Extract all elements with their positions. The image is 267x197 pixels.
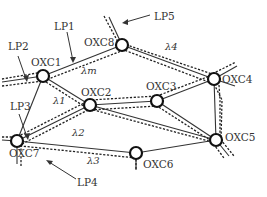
node-oxc1[interactable] xyxy=(37,70,49,82)
label-oxc1: OXC1 xyxy=(31,56,61,68)
node-oxc8[interactable] xyxy=(116,39,128,51)
label-lp5: LP5 xyxy=(154,10,175,22)
label-lp4: LP4 xyxy=(77,176,98,188)
label-lambda3: λ3 xyxy=(86,155,100,166)
label-lp1: LP1 xyxy=(54,20,75,32)
label-lambda2: λ2 xyxy=(71,127,85,138)
lp5-arrowhead xyxy=(122,19,128,25)
node-oxc3[interactable] xyxy=(151,95,163,107)
label-oxc2: OXC2 xyxy=(81,86,111,98)
label-lp3: LP3 xyxy=(10,100,31,112)
label-lambda4: λ4 xyxy=(164,41,178,52)
label-lambda1: λ1 xyxy=(52,95,66,106)
lp4-arrow xyxy=(49,162,76,179)
node-oxc7[interactable] xyxy=(11,135,23,147)
link-oxc3-oxc5 xyxy=(157,101,216,140)
lightpath-lambda4-tail xyxy=(219,85,220,140)
lp1-arrow xyxy=(67,32,73,61)
label-oxc6: OXC6 xyxy=(143,158,174,170)
link-oxc6-oxc5 xyxy=(136,140,216,153)
label-lambda-m: λm xyxy=(80,65,97,76)
node-oxc4[interactable] xyxy=(208,73,220,85)
label-oxc5: OXC5 xyxy=(225,131,255,143)
network-diagram: OXC1 OXC2 OXC3 OXC4 OXC5 OXC6 OXC7 OXC8 … xyxy=(0,0,267,197)
label-lp2: LP2 xyxy=(8,40,29,52)
lp1-arrowhead xyxy=(70,57,76,63)
lp5-arrow xyxy=(126,15,150,22)
node-oxc6[interactable] xyxy=(130,147,142,159)
node-oxc5[interactable] xyxy=(210,134,222,146)
label-oxc7: OXC7 xyxy=(9,147,39,159)
node-oxc2[interactable] xyxy=(84,99,96,111)
label-oxc3: OXC3 xyxy=(146,80,176,92)
link-oxc2-oxc5 xyxy=(90,105,216,140)
label-oxc8: OXC8 xyxy=(84,36,114,48)
label-oxc4: OXC4 xyxy=(222,73,253,85)
link-oxc2-oxc3 xyxy=(90,101,157,105)
